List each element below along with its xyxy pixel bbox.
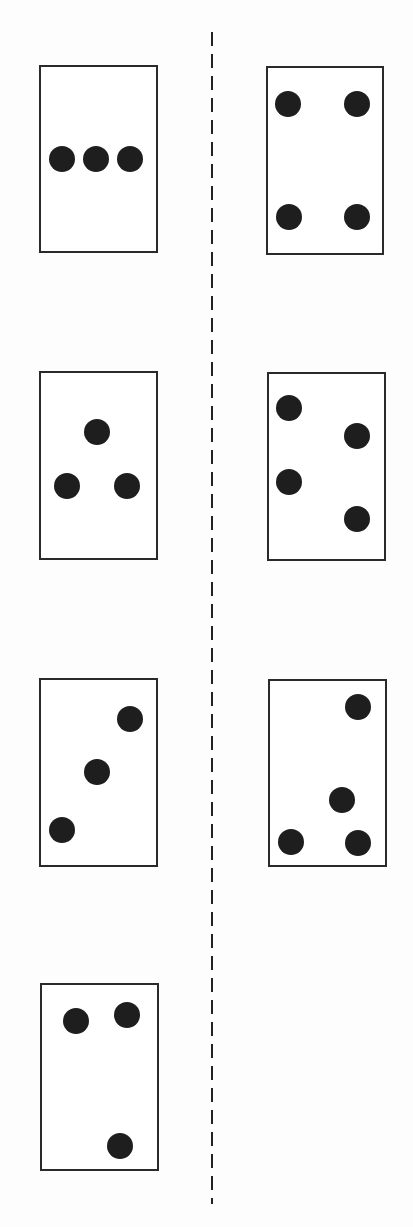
dot-card-diagram — [0, 0, 413, 1227]
dot — [63, 1008, 89, 1034]
dot — [83, 146, 109, 172]
card-3 — [40, 372, 157, 559]
dot — [344, 91, 370, 117]
dot — [117, 706, 143, 732]
dot — [278, 829, 304, 855]
dot — [107, 1133, 133, 1159]
card-2 — [267, 67, 383, 254]
dot — [84, 419, 110, 445]
dot — [329, 787, 355, 813]
dot — [117, 146, 143, 172]
dot — [344, 506, 370, 532]
dot — [275, 91, 301, 117]
dot — [345, 830, 371, 856]
card-6 — [269, 680, 386, 866]
card-frame — [40, 372, 157, 559]
dot — [344, 423, 370, 449]
dot — [276, 469, 302, 495]
dot — [49, 817, 75, 843]
card-frame — [41, 984, 158, 1170]
dot — [344, 204, 370, 230]
dot — [49, 146, 75, 172]
dot — [84, 759, 110, 785]
dot — [276, 395, 302, 421]
card-4 — [268, 373, 385, 560]
dot — [345, 694, 371, 720]
card-1 — [40, 66, 157, 252]
dot — [114, 1002, 140, 1028]
dot — [54, 473, 80, 499]
card-7 — [41, 984, 158, 1170]
card-5 — [40, 679, 157, 866]
dot — [276, 204, 302, 230]
dot — [114, 473, 140, 499]
